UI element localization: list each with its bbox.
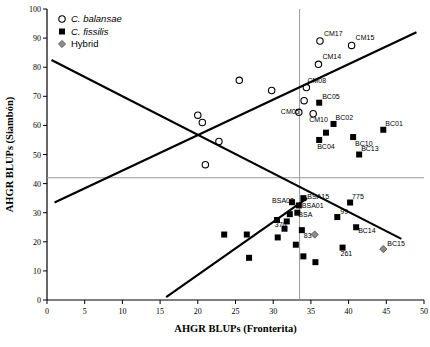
point-label: BC02: [336, 114, 354, 121]
y-tick-label: 40: [33, 180, 41, 189]
data-point-open-circle: [199, 119, 205, 125]
data-point-open-circle: [348, 42, 354, 48]
x-axis-title: AHGR BLUPs (Fronterita): [174, 323, 297, 335]
legend-marker-balansae: [59, 16, 65, 22]
y-tick-label: 70: [33, 92, 41, 101]
x-tick-label: 50: [420, 307, 428, 316]
point-label: BC14: [358, 227, 376, 234]
x-tick-label: 5: [83, 307, 87, 316]
scatter-plot-svg: CM17CM15CM14CM08CM05CM10BC05BC02BC04BC10…: [0, 0, 430, 347]
point-label: BC01: [385, 120, 403, 127]
x-tick-label: 20: [194, 307, 202, 316]
y-tick-label: 10: [33, 267, 41, 276]
data-point-labels: CM17CM15CM14CM08CM05CM10BC05BC02BC04BC10…: [272, 30, 405, 257]
data-point-filled-square: [244, 232, 250, 238]
point-label: BC13: [361, 145, 379, 152]
point-label: 370: [275, 221, 287, 228]
data-point-gray-diamond: [380, 245, 387, 252]
data-point-open-circle: [268, 87, 274, 93]
legend-label-balansae: C. balansae: [71, 13, 122, 24]
point-label: BC04: [317, 143, 335, 150]
point-label: CM08: [307, 77, 326, 84]
legend-marker-hybrid: [58, 40, 65, 47]
data-point-open-circle: [195, 112, 201, 118]
x-tick-label: 45: [382, 307, 390, 316]
legend: C. balansaeC. fissilisHybrid: [58, 13, 121, 49]
legend-label-fissilis: C. fissilis: [71, 26, 109, 37]
x-tick-label: 40: [345, 307, 353, 316]
data-point-filled-square: [347, 200, 353, 206]
data-point-filled-square: [300, 253, 306, 259]
point-label: BSA15: [307, 193, 329, 200]
ascending-regression-line-upper: [55, 32, 417, 202]
descending-regression-line: [52, 60, 402, 239]
x-tick-label: 30: [269, 307, 277, 316]
point-label: CM05: [281, 108, 300, 115]
y-tick-label: 0: [37, 296, 41, 305]
data-point-filled-square: [246, 255, 252, 261]
x-tick-label: 15: [156, 307, 164, 316]
point-label: CM10: [309, 116, 328, 123]
trend-lines: [52, 32, 417, 297]
data-point-filled-square: [323, 130, 329, 136]
point-label: CM17: [324, 30, 343, 37]
point-label: BC05: [322, 93, 340, 100]
x-tick-label: 35: [307, 307, 315, 316]
data-point-filled-square: [275, 234, 281, 240]
y-tick-label: 30: [33, 209, 41, 218]
point-label: 261: [341, 250, 353, 257]
point-label: BSA02: [272, 197, 294, 204]
data-point-filled-square: [380, 127, 386, 133]
y-axis-title: AHGR BLUPs (Siambón): [4, 96, 16, 212]
point-label: CM14: [322, 53, 341, 60]
data-point-filled-square: [287, 211, 293, 217]
axes: 0510152025303540455001020304050607080901…: [4, 5, 428, 335]
chart-figure: CM17CM15CM14CM08CM05CM10BC05BC02BC04BC10…: [0, 0, 430, 347]
data-point-open-circle: [315, 61, 321, 67]
data-point-filled-square: [221, 232, 227, 238]
data-point-open-circle: [202, 161, 208, 167]
data-point-filled-square: [312, 259, 318, 265]
y-tick-label: 80: [33, 63, 41, 72]
point-label: CM15: [356, 34, 375, 41]
data-point-gray-diamond: [311, 231, 318, 238]
point-label: 775: [352, 193, 364, 200]
y-tick-label: 20: [33, 238, 41, 247]
y-tick-label: 90: [33, 34, 41, 43]
legend-label-hybrid: Hybrid: [71, 38, 98, 49]
data-point-filled-square: [356, 152, 362, 158]
point-label: BSA: [298, 211, 312, 218]
ascending-regression-line-lower: [166, 198, 307, 297]
data-point-filled-square: [331, 121, 337, 127]
point-label: BC15: [387, 240, 405, 247]
y-tick-label: 100: [29, 5, 41, 14]
y-tick-label: 50: [33, 151, 41, 160]
data-point-open-circle: [301, 97, 307, 103]
data-point-filled-square: [293, 242, 299, 248]
data-point-open-circle: [216, 138, 222, 144]
x-tick-label: 25: [232, 307, 240, 316]
data-point-open-circle: [236, 77, 242, 83]
x-tick-label: 10: [118, 307, 126, 316]
point-label: BSA01: [302, 202, 324, 209]
point-label: 83: [304, 232, 312, 239]
y-tick-label: 60: [33, 121, 41, 130]
data-point-open-circle: [303, 84, 309, 90]
data-point-filled-square: [316, 100, 322, 106]
point-label: 99: [340, 208, 348, 215]
data-point-filled-square: [300, 195, 306, 201]
data-point-open-circle: [317, 38, 323, 44]
legend-marker-fissilis: [59, 29, 65, 35]
x-tick-label: 0: [45, 307, 49, 316]
